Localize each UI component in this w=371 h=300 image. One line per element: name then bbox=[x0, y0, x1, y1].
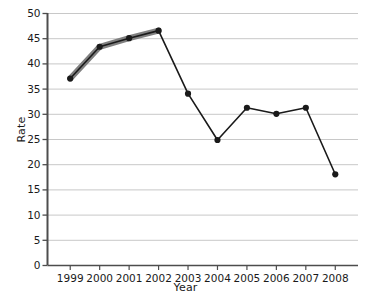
highlight-segment bbox=[70, 31, 158, 79]
data-point bbox=[126, 35, 132, 41]
data-point bbox=[273, 111, 279, 117]
data-point bbox=[185, 91, 191, 97]
y-tick-label: 45 bbox=[17, 33, 41, 44]
y-tick-label: 5 bbox=[17, 235, 41, 246]
data-point bbox=[244, 105, 250, 111]
data-point bbox=[303, 105, 309, 111]
data-point bbox=[97, 44, 103, 50]
data-point bbox=[67, 75, 73, 81]
data-point bbox=[332, 171, 338, 177]
y-tick-label: 0 bbox=[17, 260, 41, 271]
y-tick-label: 35 bbox=[17, 84, 41, 95]
y-tick-label: 50 bbox=[17, 8, 41, 19]
gridlines bbox=[48, 14, 359, 241]
data-point-markers bbox=[67, 28, 338, 178]
y-tick-label: 15 bbox=[17, 184, 41, 195]
x-axis-title: Year bbox=[0, 281, 371, 294]
data-point bbox=[214, 137, 220, 143]
plot-area bbox=[0, 0, 371, 300]
y-tick-label: 40 bbox=[17, 58, 41, 69]
data-line bbox=[70, 31, 335, 175]
y-axis-title: Rate bbox=[15, 100, 28, 160]
y-tick-label: 20 bbox=[17, 159, 41, 170]
line-chart: 05101520253035404550 1999200020012002200… bbox=[0, 0, 371, 300]
y-tick-label: 10 bbox=[17, 210, 41, 221]
data-point bbox=[155, 28, 161, 34]
